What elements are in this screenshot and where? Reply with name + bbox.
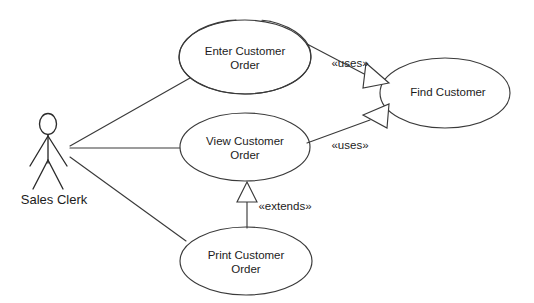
actor-sales-clerk-label: Sales Clerk: [21, 192, 88, 207]
association-lines: [70, 78, 190, 241]
use-case-diagram: Enter Customer Order View Customer Order…: [0, 0, 534, 303]
actor-leg-right-icon: [48, 160, 63, 189]
relationship-print-extends-view-arrowhead: [237, 182, 257, 202]
association-clerk-to-print-customer-order[interactable]: [70, 157, 186, 241]
actor-sales-clerk[interactable]: Sales Clerk: [21, 114, 88, 208]
actor-arm-left-icon: [30, 136, 48, 166]
use-case-print-customer-order[interactable]: Print Customer Order: [180, 227, 312, 295]
use-case-print-customer-order-label-line2: Order: [231, 263, 261, 275]
use-case-find-customer[interactable]: Find Customer: [380, 58, 510, 128]
use-case-enter-customer-order[interactable]: Enter Customer Order: [179, 20, 311, 94]
diagram-canvas: Enter Customer Order View Customer Order…: [0, 0, 534, 303]
relationship-view-uses-find-customer-label: «uses»: [331, 139, 368, 151]
use-case-view-customer-order-label-line2: Order: [230, 149, 260, 161]
actor-leg-left-icon: [33, 160, 48, 189]
use-case-find-customer-label: Find Customer: [410, 86, 486, 98]
use-case-enter-customer-order-label-line2: Order: [230, 59, 260, 71]
relationship-print-extends-view-label: «extends»: [258, 200, 311, 212]
relationship-enter-uses-find-customer[interactable]: «uses»: [307, 44, 389, 88]
use-case-enter-customer-order-label-line1: Enter Customer: [205, 45, 286, 57]
relationship-view-uses-find-customer[interactable]: «uses»: [307, 104, 389, 151]
use-case-view-customer-order[interactable]: View Customer Order: [180, 113, 310, 181]
actor-arm-right-icon: [48, 136, 67, 166]
relationship-view-uses-find-customer-arrowhead: [363, 104, 389, 128]
use-case-enter-customer-order-outline-nub-left: [228, 20, 236, 21]
actor-head-icon: [40, 114, 57, 135]
relationship-enter-uses-find-customer-label: «uses»: [331, 57, 368, 69]
relationship-print-extends-view[interactable]: «extends»: [237, 182, 312, 228]
use-case-print-customer-order-label-line1: Print Customer: [208, 249, 285, 261]
use-case-view-customer-order-label-line1: View Customer: [206, 135, 284, 147]
association-clerk-to-enter-customer-order[interactable]: [70, 78, 190, 146]
